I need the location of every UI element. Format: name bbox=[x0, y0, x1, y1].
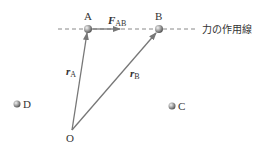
r-b-label: rB bbox=[130, 68, 140, 82]
origin-label: O bbox=[66, 133, 74, 144]
r-a-subscript: A bbox=[70, 70, 76, 79]
force-subscript: AB bbox=[115, 19, 126, 28]
point-a-label: A bbox=[84, 11, 92, 22]
point-c-label: C bbox=[178, 101, 185, 112]
point-d-ball bbox=[14, 101, 21, 108]
point-b-label: B bbox=[155, 11, 162, 22]
point-a-ball bbox=[84, 25, 92, 33]
point-d-label: D bbox=[23, 99, 31, 110]
force-diagram: A B C D O FAB rA rB 力の作用線 bbox=[0, 0, 271, 146]
force-label: FAB bbox=[108, 15, 126, 29]
point-c-ball bbox=[169, 103, 176, 110]
line-of-action-label: 力の作用線 bbox=[202, 24, 252, 35]
r-a-label: rA bbox=[66, 66, 76, 80]
point-b-ball bbox=[155, 25, 163, 33]
r-b-subscript: B bbox=[134, 72, 139, 81]
